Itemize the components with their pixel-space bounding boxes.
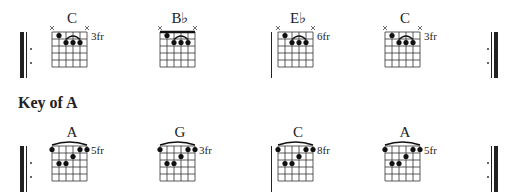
- finger-dot: [310, 147, 315, 152]
- finger-dot: [410, 40, 415, 45]
- finger-dot: [63, 161, 68, 166]
- finger-dot: [303, 147, 308, 152]
- finger-dot: [289, 40, 294, 45]
- muted-string-x: [85, 26, 89, 30]
- fret-position-label: 6fr: [317, 30, 330, 42]
- finger-dot: [396, 161, 401, 166]
- repeat-dot: [30, 48, 32, 50]
- finger-dot: [389, 161, 394, 166]
- chord-diagram: C 3fr: [44, 10, 114, 80]
- finger-dot: [171, 40, 176, 45]
- finger-dot: [403, 154, 408, 159]
- finger-dot: [417, 147, 422, 152]
- system-2: A 5fr G 3fr C 8fr A 5fr: [0, 124, 510, 192]
- thin-barline: [26, 146, 27, 192]
- chord-diagram: E♭ 6fr: [270, 10, 340, 80]
- chord-diagram: B♭: [152, 10, 222, 80]
- repeat-dot: [487, 162, 489, 164]
- repeat-dot: [30, 62, 32, 64]
- finger-dot: [275, 147, 280, 152]
- repeat-end-sign: [486, 146, 500, 192]
- finger-dot: [389, 33, 394, 38]
- repeat-start-sign: [20, 32, 34, 78]
- finger-dot: [396, 40, 401, 45]
- finger-dot: [56, 161, 61, 166]
- thick-barline: [494, 32, 498, 78]
- barre-arc: [160, 142, 195, 145]
- chord-grid: 6fr: [270, 24, 340, 80]
- chord-diagram: C 8fr: [270, 124, 340, 192]
- muted-string-x: [311, 26, 315, 30]
- muted-string-x: [50, 26, 54, 30]
- fret-position-label: 3fr: [424, 30, 437, 42]
- finger-dot: [84, 147, 89, 152]
- finger-dot: [403, 40, 408, 45]
- muted-string-x: [383, 26, 387, 30]
- chord-grid: 5fr: [377, 138, 447, 192]
- finger-dot: [410, 147, 415, 152]
- barre-arc: [385, 142, 420, 145]
- repeat-dot: [30, 162, 32, 164]
- barre-arc: [278, 142, 313, 145]
- chord-diagram: A 5fr: [377, 124, 447, 192]
- finger-dot: [49, 147, 54, 152]
- repeat-dot: [487, 48, 489, 50]
- barre-arc: [52, 142, 87, 145]
- fret-position-label: 8fr: [317, 144, 330, 156]
- chord-grid: 3fr: [44, 24, 114, 80]
- chord-grid: 8fr: [270, 138, 340, 192]
- thick-barline: [20, 146, 24, 192]
- finger-dot: [289, 161, 294, 166]
- muted-string-x: [418, 26, 422, 30]
- chord-grid: 5fr: [44, 138, 114, 192]
- chord-grid: 3fr: [377, 24, 447, 80]
- repeat-end-sign: [486, 32, 500, 78]
- finger-dot: [282, 161, 287, 166]
- finger-dot: [178, 154, 183, 159]
- fret-position-label: 5fr: [424, 144, 437, 156]
- chord-diagram: C 3fr: [377, 10, 447, 80]
- chord-grid: [152, 24, 222, 80]
- repeat-dot: [30, 176, 32, 178]
- fret-position-label: 3fr: [91, 30, 104, 42]
- fret-position-label: 3fr: [199, 144, 212, 156]
- finger-dot: [296, 40, 301, 45]
- thin-barline: [491, 146, 492, 192]
- thick-barline: [494, 146, 498, 192]
- thin-barline: [26, 32, 27, 78]
- finger-dot: [282, 33, 287, 38]
- finger-dot: [77, 147, 82, 152]
- finger-dot: [164, 161, 169, 166]
- chord-diagram: G 3fr: [152, 124, 222, 192]
- repeat-dot: [487, 62, 489, 64]
- finger-dot: [77, 40, 82, 45]
- finger-dot: [382, 147, 387, 152]
- finger-dot: [157, 147, 162, 152]
- finger-dot: [70, 154, 75, 159]
- repeat-dot: [487, 176, 489, 178]
- chord-diagram: A 5fr: [44, 124, 114, 192]
- finger-dot: [56, 33, 61, 38]
- finger-dot: [185, 147, 190, 152]
- section-heading: Key of A: [18, 94, 78, 112]
- finger-dot: [63, 40, 68, 45]
- finger-dot: [171, 161, 176, 166]
- finger-dot: [178, 40, 183, 45]
- finger-dot: [296, 154, 301, 159]
- finger-dot: [192, 147, 197, 152]
- finger-dot: [185, 40, 190, 45]
- finger-dot: [164, 33, 169, 38]
- finger-dot: [70, 40, 75, 45]
- system-1: C 3fr B♭ E♭ 6fr C 3fr: [0, 10, 510, 80]
- thick-barline: [20, 32, 24, 78]
- muted-string-x: [158, 26, 162, 30]
- muted-string-x: [276, 26, 280, 30]
- muted-string-x: [193, 26, 197, 30]
- repeat-start-sign: [20, 146, 34, 192]
- thin-barline: [491, 32, 492, 78]
- chord-grid: 3fr: [152, 138, 222, 192]
- finger-dot: [303, 40, 308, 45]
- fret-position-label: 5fr: [91, 144, 104, 156]
